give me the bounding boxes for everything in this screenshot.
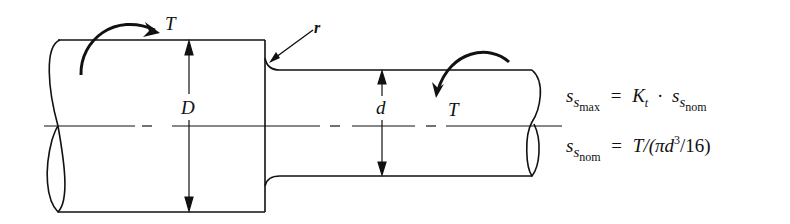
- equation-max-stress: ssmax = Kt · ssnom: [566, 86, 707, 105]
- eq1-equals: =: [611, 85, 622, 106]
- equation-nominal-stress: ssnom = T/(πd3/16): [566, 136, 711, 155]
- torque-label-left: T: [165, 14, 176, 33]
- eq1-kt: K: [632, 85, 645, 106]
- dimension-d: [378, 71, 386, 175]
- torque-arrow-right: [438, 52, 509, 90]
- eq1-rhs-subsub: nom: [685, 100, 706, 114]
- eq1-dot: ·: [657, 85, 663, 106]
- fillet-radius-label: r: [314, 20, 320, 36]
- diameter-small-label: d: [376, 98, 386, 117]
- diameter-large-label: D: [181, 98, 195, 117]
- eq1-kt-sub: t: [645, 96, 648, 110]
- small-shaft-section: [265, 58, 540, 186]
- torque-label-right: T: [448, 100, 459, 119]
- eq1-lhs-subsub: max: [579, 100, 600, 114]
- eq2-lhs-subsub: nom: [579, 150, 600, 164]
- shaft-diagram: [0, 0, 790, 224]
- eq2-equals: =: [611, 135, 622, 156]
- eq2-rhs-exp: 3: [674, 133, 680, 147]
- torque-arrow-left: [81, 24, 155, 75]
- eq2-rhs-post: /16): [680, 135, 711, 156]
- eq2-rhs-pre: T/(πd: [633, 135, 674, 156]
